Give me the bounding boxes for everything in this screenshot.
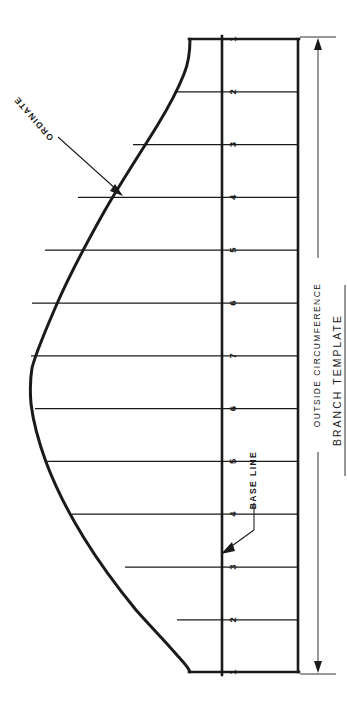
ordinate-label: ORDINATE [11, 94, 55, 142]
ordinate-lines [31, 92, 298, 620]
station-number: 3 [227, 142, 238, 147]
dimension-label: OUTSIDE CIRCUMFERENCE [312, 283, 322, 428]
station-number: 5 [227, 247, 238, 253]
station-number: 6 [227, 300, 238, 305]
station-number: 3 [227, 564, 238, 569]
station-number: 7 [227, 353, 238, 358]
station-number: 6 [227, 406, 238, 411]
station-number: 1 [227, 36, 238, 42]
station-number: 2 [227, 617, 238, 622]
page-title: BRANCH TEMPLATE [332, 314, 343, 446]
station-number: 4 [227, 194, 238, 200]
branch-template-drawing: 1 2 3 4 5 6 7 6 5 4 3 2 1 ORDINATE BASE … [0, 0, 347, 702]
base-line-label: BASE LINE [248, 451, 258, 509]
drawing-title-group: BRANCH TEMPLATE [332, 285, 345, 476]
drawing-canvas: 1 2 3 4 5 6 7 6 5 4 3 2 1 ORDINATE BASE … [0, 0, 347, 702]
base-line-annotation: BASE LINE [221, 451, 258, 554]
dimension-arrowhead-top [314, 38, 322, 50]
station-number: 5 [227, 458, 238, 464]
outside-circumference-dimension: OUTSIDE CIRCUMFERENCE [300, 37, 336, 674]
ordinate-leader-line [58, 137, 117, 190]
station-number: 2 [227, 89, 238, 94]
station-number: 1 [227, 669, 238, 675]
station-number: 4 [227, 511, 238, 517]
station-numbers: 1 2 3 4 5 6 7 6 5 4 3 2 1 [227, 36, 238, 675]
ordinate-annotation: ORDINATE [11, 94, 123, 196]
dimension-arrowhead-bottom [314, 661, 322, 673]
